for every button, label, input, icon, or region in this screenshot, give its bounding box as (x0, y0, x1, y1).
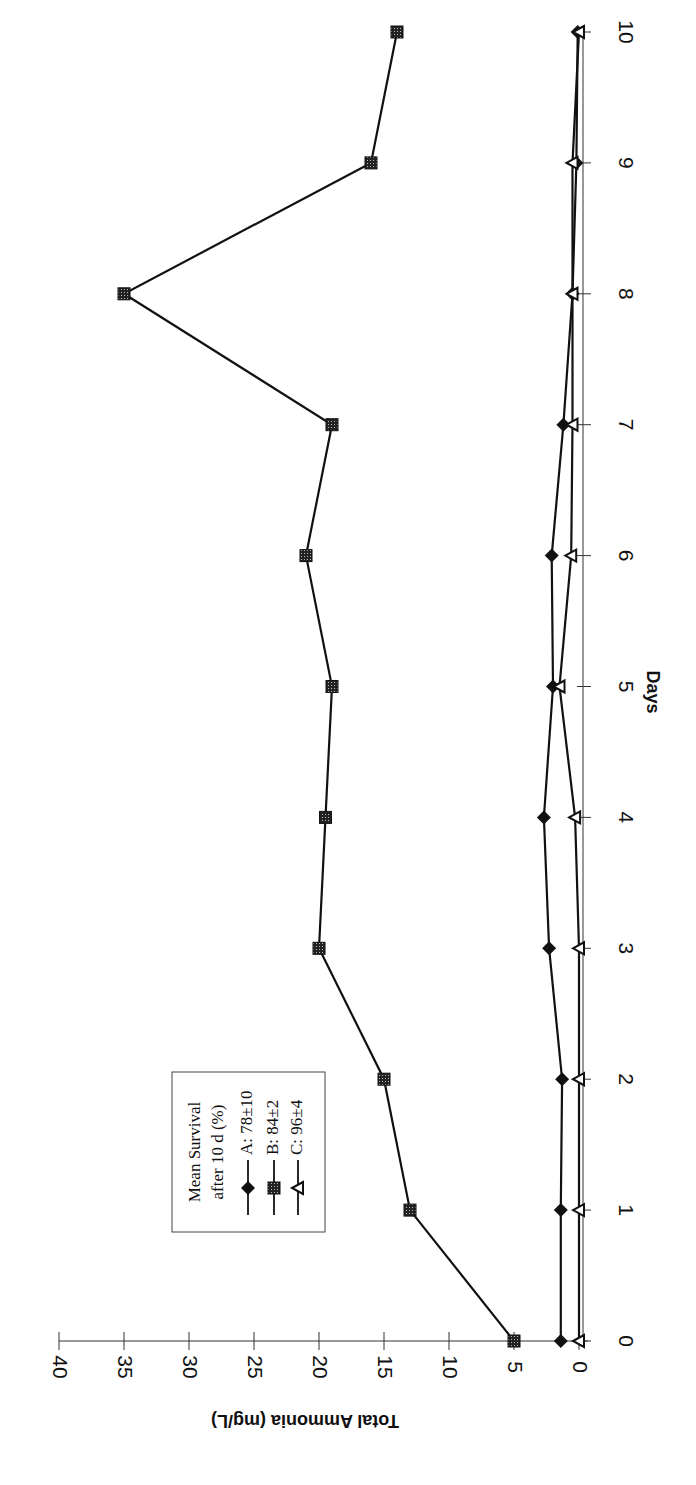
day-tick-label: 5 (615, 681, 638, 693)
square-marker-icon (404, 1204, 416, 1216)
square-marker-icon (326, 681, 338, 693)
day-tick-label: 4 (615, 812, 638, 824)
legend-entry-a: A: 78±10 (237, 1090, 256, 1155)
day-tick-label: 10 (615, 20, 638, 43)
day-tick-label: 1 (615, 1204, 638, 1216)
value-tick-label: 10 (439, 1355, 462, 1378)
value-tick-label: 20 (309, 1355, 332, 1378)
square-marker-icon (268, 1182, 280, 1194)
square-marker-icon (313, 942, 325, 954)
legend-entry-c: C: 96±4 (287, 1099, 306, 1155)
legend-title-line1: Mean Survival (185, 1101, 204, 1202)
day-tick-label: 9 (615, 157, 638, 169)
value-tick-label: 15 (374, 1355, 397, 1378)
value-tick-label: 40 (49, 1355, 72, 1378)
diamond-marker-icon (554, 1203, 568, 1217)
day-tick-label: 6 (615, 550, 638, 562)
day-tick-label: 7 (615, 419, 638, 431)
diamond-marker-icon (555, 1072, 569, 1086)
day-axis-title: Days (643, 670, 663, 713)
value-axis-title: Total Ammonia (mg/L) (211, 1411, 399, 1431)
legend: Mean Survivalafter 10 d (%)A: 78±10B: 84… (172, 1072, 325, 1232)
day-tick-label: 8 (615, 288, 638, 300)
diamond-marker-icon (545, 549, 559, 563)
square-marker-icon (320, 811, 332, 823)
square-marker-icon (378, 1073, 390, 1085)
square-marker-icon (508, 1335, 520, 1347)
square-marker-icon (365, 157, 377, 169)
diamond-marker-icon (537, 810, 551, 824)
legend-entry-b: B: 84±2 (263, 1100, 282, 1155)
x-axis-days: 012345678910Days (577, 20, 663, 1347)
day-tick-label: 2 (615, 1073, 638, 1085)
square-marker-icon (300, 550, 312, 562)
square-marker-icon (118, 288, 130, 300)
square-marker-icon (391, 26, 403, 38)
diamond-marker-icon (542, 941, 556, 955)
value-tick-label: 0 (569, 1361, 592, 1373)
value-tick-label: 35 (114, 1355, 137, 1378)
value-tick-label: 5 (504, 1361, 527, 1373)
diamond-marker-icon (554, 1334, 568, 1348)
value-tick-label: 30 (179, 1355, 202, 1378)
value-tick-label: 25 (244, 1355, 267, 1378)
legend-title-line2: after 10 d (%) (208, 1105, 227, 1200)
day-tick-label: 0 (615, 1335, 638, 1347)
square-marker-icon (326, 419, 338, 431)
day-tick-label: 3 (615, 942, 638, 954)
ammonia-line-chart: 0510152025303540Total Ammonia (mg/L) 012… (0, 0, 696, 1485)
